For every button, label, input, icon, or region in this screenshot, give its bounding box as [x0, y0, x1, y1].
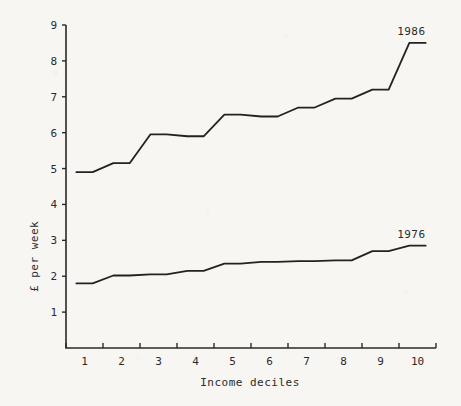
y-axis-title: £ per week [28, 221, 41, 292]
series-line-1976 [76, 246, 425, 284]
x-axis-tick-label: 5 [229, 355, 236, 368]
y-axis-tick-label: 4 [50, 198, 57, 211]
x-axis-title: Income deciles [200, 376, 300, 389]
y-axis-tick-label: 1 [50, 306, 57, 319]
series-line-1986 [76, 43, 425, 172]
x-axis-ticks: 12345678910 [66, 343, 436, 368]
x-axis-tick-label: 4 [192, 355, 199, 368]
x-axis-tick-label: 7 [303, 355, 310, 368]
y-axis-tick-label: 6 [50, 127, 57, 140]
x-axis-tick-label: 9 [377, 355, 384, 368]
x-axis-tick-label: 2 [118, 355, 125, 368]
y-axis-tick-label: 3 [50, 234, 57, 247]
x-axis-tick-label: 1 [81, 355, 88, 368]
y-axis-tick-label: 5 [50, 163, 57, 176]
y-axis-tick-label: 7 [50, 91, 57, 104]
y-axis-ticks: 123456789 [50, 19, 66, 319]
x-axis-tick-label: 8 [340, 355, 347, 368]
y-axis-tick-label: 9 [50, 19, 57, 32]
y-axis-tick-label: 2 [50, 270, 57, 283]
y-axis-tick-label: 8 [50, 55, 57, 68]
series-label-1976: 1976 [397, 228, 426, 241]
line-chart-canvas: 123456789 12345678910 19861976 £ per wee… [0, 0, 461, 406]
x-axis-tick-label: 3 [155, 355, 162, 368]
chart-series-lines [76, 43, 425, 283]
series-label-1986: 1986 [397, 25, 426, 38]
chart-axes [66, 25, 436, 348]
series-end-labels: 19861976 [397, 25, 426, 241]
chart-figure: 123456789 12345678910 19861976 £ per wee… [0, 0, 461, 406]
x-axis-tick-label: 10 [411, 355, 424, 368]
x-axis-tick-label: 6 [266, 355, 273, 368]
